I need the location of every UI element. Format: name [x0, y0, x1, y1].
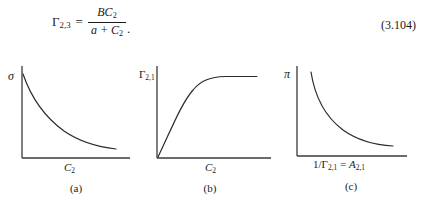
panel-c-x-label-equals: = [337, 158, 349, 170]
gamma-subscript: 2,3 [60, 21, 71, 31]
panel-c-plot [285, 52, 430, 200]
panel-b-caption: (b) [190, 182, 230, 194]
panel-b-x-label-subscript: 2 [212, 166, 216, 175]
panel-c-y-axis-label: π [284, 68, 290, 80]
panel-b-x-axis-label: C2 [205, 162, 216, 175]
numerator-subscript: 2 [113, 11, 117, 20]
numerator-text: BC [97, 5, 112, 19]
fraction: BC2 a + C2 [88, 6, 126, 39]
panel-c-x-label-a: A [349, 158, 356, 170]
panel-a-x-axis-label: C2 [64, 162, 75, 175]
panel-c-x-axis-label: 1/Γ2,1 = A2,1 [313, 159, 365, 172]
panel-b-y-label-subscript: 2,1 [145, 73, 154, 82]
panel-c-x-label-inverse-gamma: 1/Γ [313, 158, 328, 170]
panel-a-curve [23, 74, 116, 149]
denominator-subscript: 2 [119, 29, 123, 38]
panel-b-y-axis-label: Γ2,1 [139, 69, 155, 82]
panel-c: π 1/Γ2,1 = A2,1 (c) [285, 52, 425, 200]
gamma-symbol: Γ [52, 14, 60, 29]
panel-c-x-label-sub1: 2,1 [328, 163, 337, 172]
panel-b-plot [145, 52, 285, 200]
equation-lhs: Γ2,3 [52, 14, 71, 30]
equals-sign: = [76, 14, 83, 30]
panel-a-plot [6, 52, 146, 200]
equation-expression: Γ2,3 = BC2 a + C2 . [52, 6, 130, 39]
denominator-text: a + C [91, 23, 119, 37]
fraction-numerator: BC2 [94, 6, 119, 22]
panel-b-curve [158, 77, 257, 158]
panel-a-y-axis-label: σ [8, 70, 14, 82]
equation-row: Γ2,3 = BC2 a + C2 . (3.104) [0, 6, 434, 48]
panel-a-caption: (a) [56, 182, 96, 194]
panel-a: σ C2 (a) [6, 52, 146, 200]
panel-a-x-label-subscript: 2 [71, 166, 75, 175]
panel-b: Γ2,1 C2 (b) [145, 52, 285, 200]
fraction-denominator: a + C2 [88, 23, 126, 39]
panel-c-caption: (c) [331, 180, 371, 192]
equation-period: . [127, 21, 130, 39]
equation-number: (3.104) [381, 18, 416, 33]
panel-c-x-label-sub2: 2,1 [356, 163, 365, 172]
figure-panels: σ C2 (a) Γ2,1 C2 (b) π 1/Γ2,1 = A2,1 (c) [0, 52, 434, 200]
panel-c-curve [311, 72, 393, 146]
